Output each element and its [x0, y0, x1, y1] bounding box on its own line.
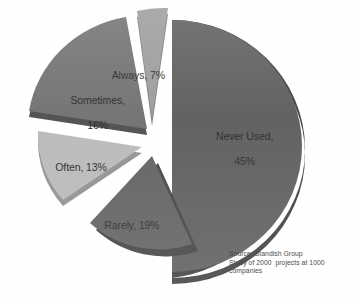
pie-slice-sometimes[interactable] — [29, 17, 147, 135]
source-note-line-3: companies — [229, 267, 351, 276]
pie-slice-sometimes-face — [29, 17, 147, 129]
pie-slice-never-used-face — [172, 20, 302, 272]
source-note: Source: Standish Group Study of 2000 pro… — [229, 250, 351, 276]
source-note-line-1: Source: Standish Group — [229, 250, 351, 259]
source-note-line-2: Study of 2000 projects at 1000 — [229, 259, 351, 268]
pie-chart: Never Used, 45% Always, 7% Sometimes, 16… — [0, 0, 357, 299]
